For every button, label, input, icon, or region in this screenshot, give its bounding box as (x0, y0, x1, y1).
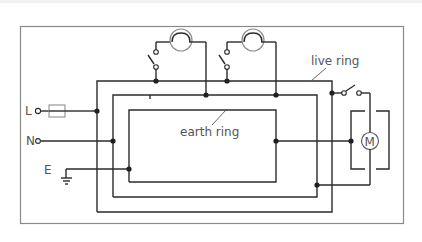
neutral-terminal (36, 139, 41, 144)
live-ring-label: live ring (311, 54, 359, 68)
earth-label: E (44, 163, 52, 177)
earth-ring-annotation: earth ring (180, 110, 239, 139)
switch-terminal (357, 91, 362, 96)
lamp-circuit-1 (148, 29, 209, 98)
live-supply: L (25, 104, 100, 118)
switch-terminal (154, 65, 159, 70)
switch-icon (219, 55, 225, 64)
motor-circuit: M (273, 85, 389, 188)
switch-terminal (154, 50, 159, 55)
live-ring-annotation: live ring (311, 54, 359, 81)
motor-label: M (365, 135, 375, 149)
switch-icon (148, 55, 154, 64)
neutral-label: N (26, 134, 35, 148)
switch-terminal (225, 50, 230, 55)
switch-icon (346, 85, 355, 91)
live-ring (97, 81, 332, 212)
live-label: L (25, 104, 32, 118)
switch-terminal (225, 65, 230, 70)
earth-ring (129, 110, 276, 182)
earth-supply: E (44, 163, 132, 184)
neutral-supply: N (26, 134, 116, 148)
earth-ring-label: earth ring (180, 125, 239, 139)
live-terminal (35, 108, 40, 113)
switch-terminal (342, 91, 347, 96)
ring-circuit-diagram: L N E (0, 0, 422, 242)
earth-icon (61, 178, 72, 184)
lamp-circuit-2 (219, 29, 279, 98)
